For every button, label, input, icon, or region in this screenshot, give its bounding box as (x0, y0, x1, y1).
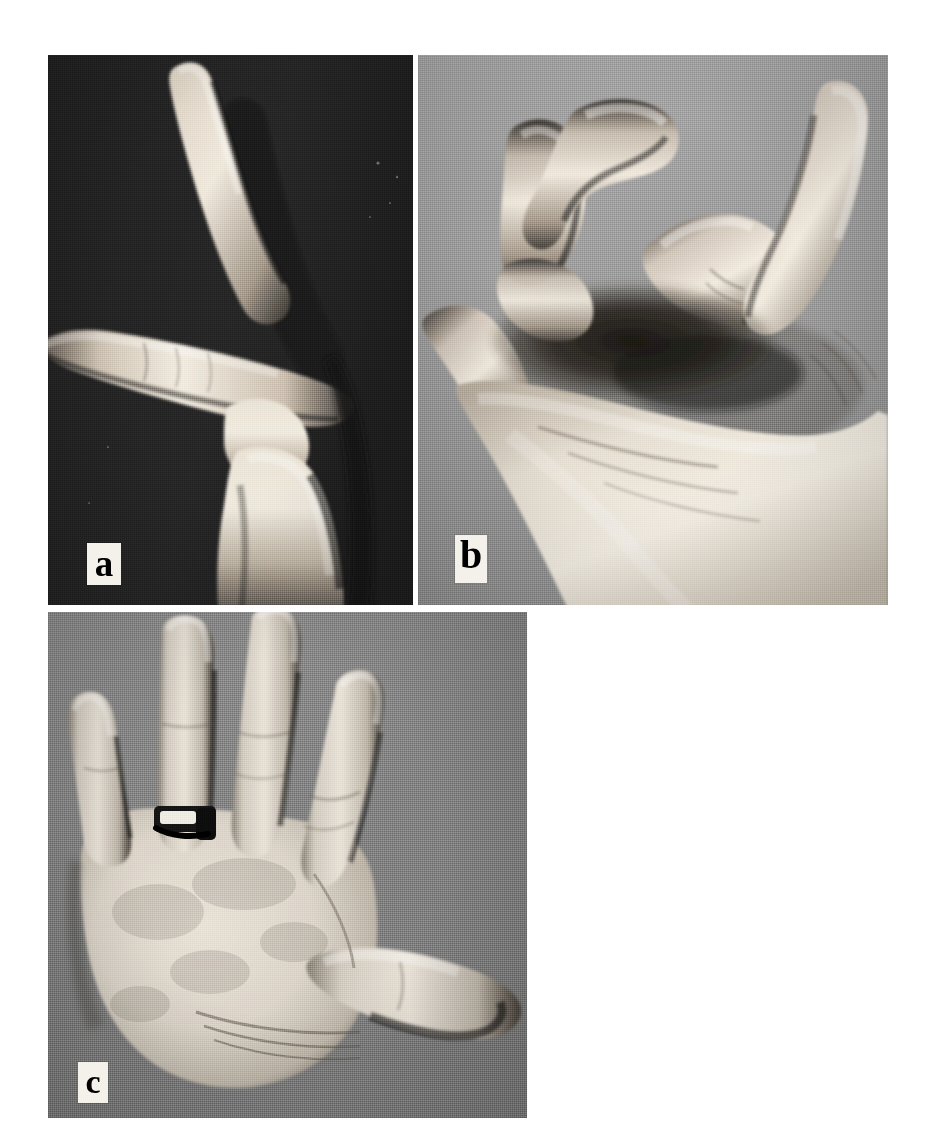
panel-label-a-text: a (87, 545, 121, 582)
panel-a-photograph (48, 55, 413, 605)
panel-c[interactable]: c (48, 612, 527, 1118)
panel-label-a: a (87, 543, 121, 585)
panel-b-photograph (418, 55, 888, 605)
panel-b[interactable]: b (418, 55, 888, 605)
panel-c-photograph (48, 612, 527, 1118)
panel-label-b: b (455, 535, 487, 583)
panel-a[interactable]: a (48, 55, 413, 605)
panel-label-b-text: b (455, 535, 487, 575)
panel-label-c: c (78, 1062, 108, 1103)
figure-plate: a (0, 0, 927, 1146)
panel-label-c-text: c (78, 1065, 108, 1099)
